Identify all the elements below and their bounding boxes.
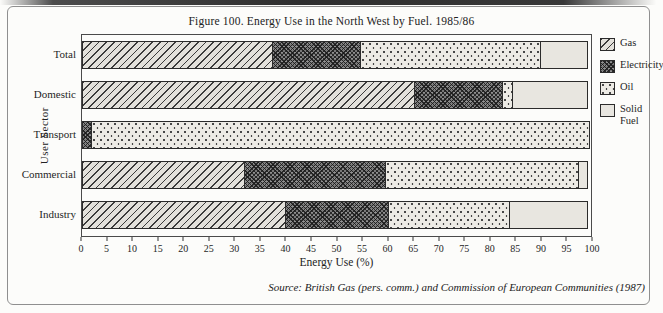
- x-tick-45: [310, 237, 311, 241]
- bar-row-commercial: [82, 161, 591, 189]
- segment-domestic-electricity: [414, 81, 503, 109]
- x-axis-title: Energy Use (%): [81, 256, 592, 268]
- category-label-total: Total: [8, 40, 79, 68]
- segment-total-solid-fuel: [540, 41, 588, 69]
- legend-label-oil: Oil: [620, 81, 658, 93]
- x-tick-25: [208, 237, 209, 241]
- x-tick-95: [566, 237, 567, 241]
- segment-domestic-gas: [82, 81, 415, 109]
- legend-label-electricity: Electricity: [620, 59, 663, 71]
- legend-item-gas: Gas: [600, 37, 658, 51]
- segment-industry-gas: [82, 201, 286, 229]
- legend: GasElectricityOilSolid Fuel: [600, 37, 658, 134]
- x-tick-label-30: 30: [229, 243, 239, 254]
- x-tick-100: [592, 237, 593, 241]
- segment-total-oil: [360, 41, 541, 69]
- legend-label-solid-fuel: Solid Fuel: [620, 103, 658, 126]
- x-axis: 0510152025303540455055606570758085909510…: [81, 237, 592, 257]
- category-label-commercial: Commercial: [8, 160, 79, 188]
- segment-total-electricity: [272, 41, 361, 69]
- x-tick-15: [157, 237, 158, 241]
- x-tick-label-40: 40: [280, 243, 290, 254]
- category-label-industry: Industry: [8, 200, 79, 228]
- x-tick-label-25: 25: [204, 243, 214, 254]
- x-tick-10: [132, 237, 133, 241]
- bar-row-total: [82, 41, 591, 69]
- segment-commercial-electricity: [244, 161, 387, 189]
- bar-row-domestic: [82, 81, 591, 109]
- bar-row-transport: [82, 121, 591, 149]
- category-label-transport: Transport: [8, 120, 79, 148]
- x-tick-50: [336, 237, 337, 241]
- legend-item-solid-fuel: Solid Fuel: [600, 103, 658, 126]
- bar-row-industry: [82, 201, 591, 229]
- x-tick-65: [413, 237, 414, 241]
- x-tick-label-70: 70: [434, 243, 444, 254]
- legend-item-electricity: Electricity: [600, 59, 658, 73]
- x-tick-55: [362, 237, 363, 241]
- segment-commercial-solid-fuel: [578, 161, 588, 189]
- legend-swatch-electricity: [600, 60, 615, 73]
- x-tick-90: [540, 237, 541, 241]
- legend-item-oil: Oil: [600, 81, 658, 95]
- source-note: Source: British Gas (pers. comm.) and Co…: [268, 281, 645, 293]
- segment-industry-solid-fuel: [509, 201, 588, 229]
- x-tick-label-90: 90: [536, 243, 546, 254]
- x-tick-label-10: 10: [127, 243, 137, 254]
- x-tick-85: [515, 237, 516, 241]
- x-tick-label-75: 75: [459, 243, 469, 254]
- category-labels: TotalDomesticTransportCommercialIndustry: [8, 34, 79, 240]
- legend-swatch-gas: [600, 38, 615, 51]
- x-tick-40: [285, 237, 286, 241]
- x-tick-label-80: 80: [485, 243, 495, 254]
- x-tick-75: [464, 237, 465, 241]
- x-tick-label-35: 35: [255, 243, 265, 254]
- x-tick-80: [489, 237, 490, 241]
- x-tick-5: [106, 237, 107, 241]
- x-tick-30: [234, 237, 235, 241]
- x-tick-label-60: 60: [383, 243, 393, 254]
- x-tick-label-45: 45: [306, 243, 316, 254]
- x-tick-60: [387, 237, 388, 241]
- segment-commercial-gas: [82, 161, 245, 189]
- x-tick-label-50: 50: [332, 243, 342, 254]
- x-tick-label-15: 15: [153, 243, 163, 254]
- x-tick-70: [438, 237, 439, 241]
- segment-total-gas: [82, 41, 273, 69]
- x-tick-label-5: 5: [104, 243, 109, 254]
- x-tick-label-55: 55: [357, 243, 367, 254]
- legend-swatch-oil: [600, 82, 615, 95]
- scan-artifact-band: [0, 0, 663, 5]
- x-tick-label-85: 85: [510, 243, 520, 254]
- segment-industry-oil: [388, 201, 510, 229]
- segment-industry-electricity: [285, 201, 389, 229]
- x-tick-label-100: 100: [585, 243, 600, 254]
- segment-domestic-solid-fuel: [512, 81, 588, 109]
- segment-transport-oil: [91, 121, 590, 149]
- chart-title: Figure 100. Energy Use in the North West…: [0, 15, 663, 27]
- figure-canvas: Figure 100. Energy Use in the North West…: [0, 0, 663, 313]
- x-tick-label-65: 65: [408, 243, 418, 254]
- category-label-domestic: Domestic: [8, 80, 79, 108]
- plot-area: [81, 34, 592, 237]
- legend-label-gas: Gas: [620, 37, 658, 49]
- x-tick-20: [183, 237, 184, 241]
- x-tick-0: [81, 237, 82, 241]
- x-tick-label-20: 20: [178, 243, 188, 254]
- x-tick-label-95: 95: [561, 243, 571, 254]
- legend-swatch-solid-fuel: [600, 104, 615, 117]
- x-tick-label-0: 0: [79, 243, 84, 254]
- x-tick-35: [259, 237, 260, 241]
- segment-commercial-oil: [385, 161, 578, 189]
